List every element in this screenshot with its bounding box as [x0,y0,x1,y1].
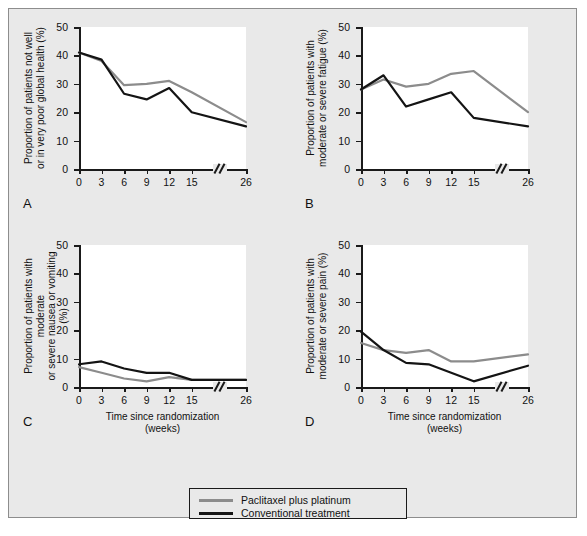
series-layer [9,9,286,229]
chart-panel-b: 010203040500369121526Proportion of patie… [291,9,568,229]
panel-label-d: D [305,414,314,429]
legend-swatch [199,512,233,515]
chart-panel-d: 010203040500369121526Proportion of patie… [291,227,568,447]
series-line-conventional-treatment [79,53,246,127]
chart-legend: Paclitaxel plus platinumConventional tre… [189,488,407,519]
y-axis-label: Proportion of patients with moderate or … [305,245,328,387]
legend-label: Paclitaxel plus platinum [241,494,351,506]
figure-container: 010203040500369121526Proportion of patie… [8,8,577,518]
series-line-conventional-treatment [361,75,528,126]
panel-label-a: A [23,196,32,211]
series-line-conventional-treatment [79,361,246,379]
panel-label-b: B [305,196,314,211]
legend-swatch [199,499,233,502]
series-line-conventional-treatment [361,332,528,382]
chart-panel-a: 010203040500369121526Proportion of patie… [9,9,286,229]
chart-panel-c: 010203040500369121526Proportion of patie… [9,227,286,447]
y-axis-label: Proportion of patients with moderate or … [305,27,328,169]
legend-label: Conventional treatment [241,507,350,519]
x-axis-label: Time since randomization (weeks) [63,411,263,434]
x-axis-label: Time since randomization (weeks) [345,411,545,434]
y-axis-label: Proportion of patients with moderate or … [23,245,69,387]
series-layer [291,9,568,229]
y-axis-label: Proportion of patients not well or in ve… [23,27,46,169]
panel-label-c: C [23,414,32,429]
